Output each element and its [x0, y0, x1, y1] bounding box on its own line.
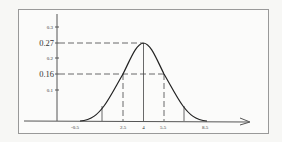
x-tick-label-5.5: 5.5 [160, 125, 167, 130]
y-tick-label-0.2: 0.2 [47, 56, 54, 61]
x-tick-label-2.5: 2.5 [120, 125, 127, 130]
x-tick-label-8.5: 8.5 [202, 125, 209, 130]
y-tick-label-0.3: 0.3 [47, 25, 54, 30]
y-tick-label-0.1: 0.1 [47, 88, 54, 93]
normal-distribution-chart: 0.3 0.27 0.2 0.16 0.1 -0.5 2.5 4 5.5 8.5 [0, 0, 282, 142]
x-tick-label--0.5: -0.5 [71, 125, 79, 130]
y-tick-label-0.27: 0.27 [39, 38, 54, 48]
y-tick-label-0.16: 0.16 [39, 69, 54, 79]
